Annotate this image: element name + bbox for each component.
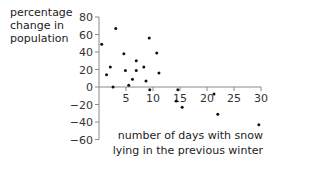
data-point [135,59,138,62]
x-tick-label: 15 [173,92,187,105]
data-point [122,52,125,55]
x-axis-label: number of days with snow lying in the pr… [113,128,263,158]
x-tick-label: 30 [254,92,268,105]
x-tick-label: 20 [200,92,214,105]
data-point [114,27,117,30]
y-tick-label: 80 [79,11,93,24]
data-point [127,84,130,87]
data-point [175,100,178,103]
data-point [155,51,158,54]
data-point [213,93,216,96]
y-tick-label: 40 [79,46,93,59]
data-point [148,88,151,91]
y-axis-ticks: 806040200−20−40−60 [70,11,99,147]
data-point [142,65,145,68]
data-points [100,27,260,126]
data-point [148,37,151,40]
y-tick-label: 0 [86,81,93,94]
y-tick-label: −60 [70,134,93,147]
data-point [176,88,179,91]
x-tick-label: 25 [227,92,241,105]
x-axis-ticks: 51015202530 [123,87,269,105]
data-point [105,73,108,76]
data-point [100,43,103,46]
data-point [135,69,138,72]
data-point [109,65,112,68]
axes [99,17,261,140]
data-point [157,72,160,75]
y-tick-label: 60 [79,29,93,42]
data-point [216,113,219,116]
data-point [112,86,115,89]
x-tick-label: 5 [123,92,130,105]
data-point [124,69,127,72]
x-tick-label: 10 [146,92,160,105]
x-axis-label-line-1: number of days with snow [113,128,263,143]
data-point [131,78,134,81]
y-tick-label: −20 [70,99,93,112]
data-point [257,123,260,126]
y-tick-label: 20 [79,64,93,77]
y-tick-label: −40 [70,116,93,129]
data-point [144,79,147,82]
x-axis-label-line-2: lying in the previous winter [113,143,263,158]
data-point [181,106,184,109]
